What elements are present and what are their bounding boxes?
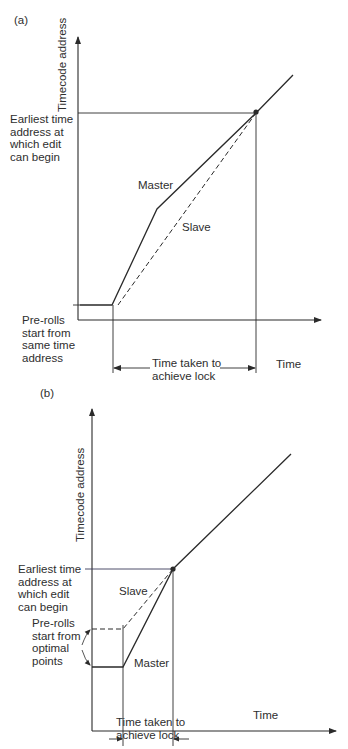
slave-label: Slave	[182, 221, 211, 233]
master-label: Master	[134, 657, 169, 669]
master-label: Master	[138, 179, 173, 191]
lock-point	[170, 566, 175, 571]
preroll-label: Pre-rolls start from same time address	[22, 314, 75, 364]
preroll-pointer-slave	[82, 630, 90, 645]
y-axis-label: Timecode address	[56, 18, 68, 112]
master-curve	[92, 454, 291, 667]
lock-label-line1: Time taken to	[152, 357, 221, 369]
preroll-pointer-master	[82, 650, 90, 665]
y-axis-label: Timecode address	[74, 448, 86, 542]
panel-tag: (a)	[14, 14, 28, 26]
preroll-label: Pre-rolls start from optimal points	[32, 617, 81, 667]
slave-label: Slave	[119, 585, 148, 597]
lock-label-line2: achieve lock	[152, 370, 215, 382]
panel-a-same-time-preroll: (a) Timecode address Earliest time addre…	[0, 0, 348, 385]
slave-curve	[92, 569, 173, 629]
lock-label-line1: Time taken to	[116, 716, 185, 728]
earliest-time-label: Earliest time address at which edit can …	[10, 113, 73, 163]
earliest-time-label: Earliest time address at which edit can …	[18, 563, 81, 613]
panel-tag: (b)	[40, 387, 54, 399]
master-curve	[80, 75, 293, 305]
panel-b-optimal-preroll: (b) Timecode address Earliest time addre…	[0, 385, 348, 749]
lock-label-line2: achieve lock	[116, 729, 179, 741]
x-axis-label: Time	[253, 709, 278, 721]
lock-point	[253, 109, 258, 114]
slave-curve	[118, 113, 256, 305]
x-axis-label: Time	[276, 358, 301, 370]
